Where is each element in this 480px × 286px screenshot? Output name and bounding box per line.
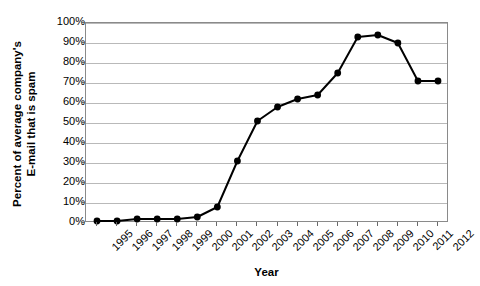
x-axis-tick-label: 2012	[450, 227, 476, 253]
x-axis-tick-label: 2003	[270, 227, 296, 253]
x-axis-tick-mark	[176, 222, 177, 226]
x-axis-tick-labels: 1995199619971998199920002001200220032004…	[85, 227, 448, 267]
x-axis-tick-label: 2002	[250, 227, 276, 253]
x-axis-tick-mark	[277, 222, 278, 226]
x-axis-tick-label: 1996	[129, 227, 155, 253]
data-point-marker	[415, 78, 422, 85]
x-axis-tick-label: 1995	[109, 227, 135, 253]
x-axis-tick-label: 2005	[310, 227, 336, 253]
y-axis-tick-label: 20%	[45, 175, 85, 187]
x-axis-tick-label: 2008	[370, 227, 396, 253]
x-axis-tick-mark	[136, 222, 137, 226]
x-axis-tick-label: 2006	[330, 227, 356, 253]
x-axis-tick-mark	[377, 222, 378, 226]
x-axis-tick-label: 2001	[230, 227, 256, 253]
x-axis-tick-label: 1999	[189, 227, 215, 253]
data-point-marker	[214, 204, 221, 211]
x-axis-tick-mark	[96, 222, 97, 226]
x-axis-tick-label: 1998	[169, 227, 195, 253]
x-axis-tick-mark	[156, 222, 157, 226]
x-axis-tick-label: 2000	[209, 227, 235, 253]
y-axis-title-line-2: E-mail that is spam	[24, 72, 38, 177]
data-point-marker	[435, 78, 442, 85]
data-point-marker	[374, 32, 381, 39]
data-point-marker	[274, 104, 281, 111]
data-point-marker	[234, 158, 241, 165]
y-axis-tick-label: 100%	[45, 15, 85, 27]
x-axis-tick-mark	[216, 222, 217, 226]
data-point-marker	[354, 34, 361, 41]
data-series-spam-percentage	[86, 23, 449, 223]
y-axis-tick-label: 70%	[45, 75, 85, 87]
x-axis-tick-label: 1997	[149, 227, 175, 253]
x-axis-tick-mark	[297, 222, 298, 226]
x-axis-tick-mark	[437, 222, 438, 226]
data-point-marker	[254, 118, 261, 125]
y-axis-tick-label: 50%	[45, 115, 85, 127]
data-point-marker	[394, 40, 401, 47]
x-axis-tick-mark	[317, 222, 318, 226]
x-axis-tick-label: 2004	[290, 227, 316, 253]
series-line	[97, 35, 438, 221]
x-axis-tick-mark	[196, 222, 197, 226]
x-axis-tick-mark	[397, 222, 398, 226]
x-axis-tick-label: 2011	[430, 227, 455, 252]
x-axis-tick-label: 2007	[350, 227, 376, 253]
data-point-marker	[334, 70, 341, 77]
data-point-marker	[314, 92, 321, 99]
x-axis-tick-mark	[357, 222, 358, 226]
y-axis-tick-label: 0%	[45, 215, 85, 227]
x-axis-tick-mark	[417, 222, 418, 226]
x-axis-tick-mark	[337, 222, 338, 226]
y-axis-tick-label: 40%	[45, 135, 85, 147]
y-axis-tick-label: 80%	[45, 55, 85, 67]
y-axis-tick-label: 30%	[45, 155, 85, 167]
x-axis-tick-mark	[236, 222, 237, 226]
plot-area	[85, 22, 448, 222]
data-point-marker	[194, 214, 201, 221]
y-axis-title-line-1: Percent of average company's	[10, 41, 24, 207]
y-axis-tick-label: 90%	[45, 35, 85, 47]
x-axis-title: Year	[85, 266, 448, 278]
data-point-marker	[294, 96, 301, 103]
y-axis-tick-label: 10%	[45, 195, 85, 207]
x-axis-tick-label: 2009	[390, 227, 416, 253]
spam-percentage-line-chart: Percent of average company's E-mail that…	[0, 0, 480, 286]
y-axis-tick-label: 60%	[45, 95, 85, 107]
x-axis-tick-mark	[116, 222, 117, 226]
y-axis-ticks: 0%10%20%30%40%50%60%70%80%90%100%	[40, 22, 85, 222]
x-axis-tick-mark	[256, 222, 257, 226]
